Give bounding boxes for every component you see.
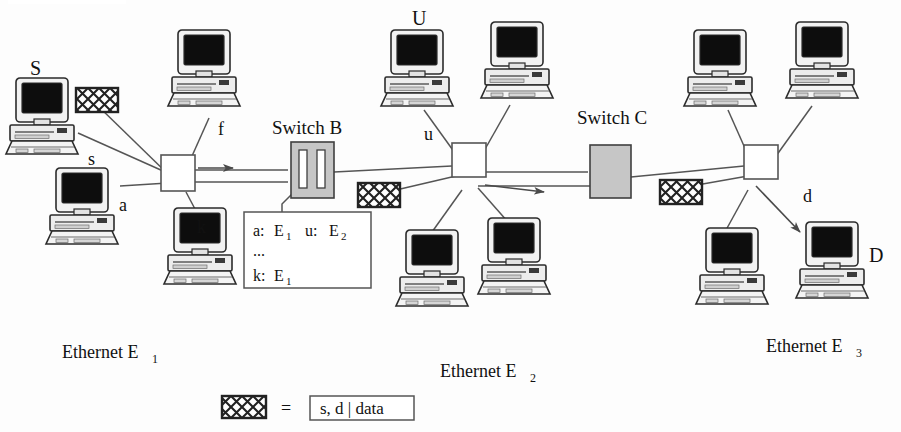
switch-b-slot-left xyxy=(299,150,307,188)
caption-ethernet-3-text: Ethernet E xyxy=(766,336,842,356)
legend-frame-text: s, d | data xyxy=(320,399,384,418)
legend-equals-sign: = xyxy=(281,398,291,418)
link-e3b-line xyxy=(776,106,812,156)
switch-b[interactable] xyxy=(291,142,334,198)
switch-b-body xyxy=(291,142,334,198)
switch-c-body xyxy=(590,145,631,198)
network-diagram-canvas: Switch B Switch C a: E 1 u: E 2 ... k: E… xyxy=(0,0,901,432)
host-e3-lower-left[interactable] xyxy=(696,228,768,304)
switch-c[interactable] xyxy=(590,145,631,198)
packet-on-ethernet-2 xyxy=(358,183,400,207)
table-row-1-left-subscript: 1 xyxy=(286,230,292,242)
label-host-s: S xyxy=(30,57,41,79)
table-row-1-right-value: E xyxy=(329,222,339,239)
label-link-d: d xyxy=(803,186,812,206)
hub-ethernet-1[interactable] xyxy=(161,155,195,191)
caption-ethernet-3-subscript: 3 xyxy=(856,346,862,360)
host-e3-upper-right[interactable] xyxy=(786,22,858,98)
switch-b-label: Switch B xyxy=(272,117,342,138)
caption-ethernet-1: Ethernet E 1 xyxy=(62,342,158,366)
rail-b-e2-top xyxy=(334,166,452,172)
scan-artifact xyxy=(8,0,126,4)
table-row-1-right-key: u: xyxy=(305,222,317,239)
label-link-f: f xyxy=(218,119,224,139)
diagram-svg: Switch B Switch C a: E 1 u: E 2 ... k: E… xyxy=(0,0,901,432)
caption-ethernet-3: Ethernet E 3 xyxy=(766,336,862,360)
label-link-u: u xyxy=(424,124,433,144)
hub-ethernet-3[interactable] xyxy=(744,145,778,179)
packet-on-ethernet-1 xyxy=(76,88,118,112)
hub-ethernet-2[interactable] xyxy=(452,143,486,177)
host-u[interactable] xyxy=(381,30,453,106)
label-link-k: k xyxy=(197,217,206,237)
label-link-s: s xyxy=(88,149,95,169)
host-f[interactable] xyxy=(168,30,240,106)
table-row-3-left-value: E xyxy=(274,267,284,284)
switch-c-label: Switch C xyxy=(577,107,647,128)
caption-ethernet-2-text: Ethernet E xyxy=(440,361,516,381)
label-host-u: U xyxy=(412,7,427,29)
link-e3c-line xyxy=(726,190,748,230)
label-host-d: D xyxy=(869,244,883,266)
table-row-1-left-key: a: xyxy=(253,222,265,239)
caption-ethernet-1-text: Ethernet E xyxy=(62,342,138,362)
rail-b-e2-bottom xyxy=(396,176,456,190)
switch-b-slot-right xyxy=(317,150,325,188)
caption-ethernet-1-subscript: 1 xyxy=(152,352,158,366)
caption-ethernet-2: Ethernet E 2 xyxy=(440,361,536,385)
rail-c-e3-top xyxy=(631,166,744,177)
switch-b-forwarding-table[interactable]: a: E 1 u: E 2 ... k: E 1 xyxy=(244,212,371,288)
host-a[interactable] xyxy=(46,168,118,244)
host-u2[interactable] xyxy=(481,22,553,98)
host-s[interactable] xyxy=(6,78,78,154)
caption-ethernet-2-subscript: 2 xyxy=(530,371,536,385)
host-e2-lower-left[interactable] xyxy=(396,230,468,306)
host-e3-upper-left[interactable] xyxy=(684,30,756,106)
link-e2b-line xyxy=(478,188,508,222)
label-link-a: a xyxy=(119,195,127,215)
table-row-1-left-value: E xyxy=(274,222,284,239)
table-row-3-left-key: k: xyxy=(253,267,265,284)
packet-on-ethernet-3 xyxy=(660,180,702,204)
host-e2-lower-right[interactable] xyxy=(478,218,550,294)
link-e2a-line xyxy=(432,190,462,232)
arrow-e3-to-d xyxy=(756,186,800,232)
table-row-2-left-key: ... xyxy=(253,242,265,259)
legend: = s, d | data xyxy=(222,396,414,420)
table-row-1-right-subscript: 2 xyxy=(341,230,347,242)
table-row-3-left-subscript: 1 xyxy=(286,275,292,287)
host-d[interactable] xyxy=(796,222,868,298)
legend-packet-swatch xyxy=(222,396,266,418)
